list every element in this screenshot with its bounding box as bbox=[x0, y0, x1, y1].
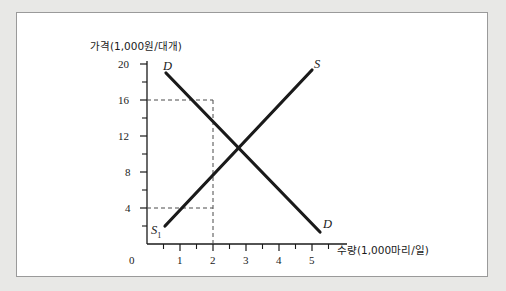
origin-label: 0 bbox=[129, 255, 135, 266]
x-major-ticks bbox=[180, 244, 312, 251]
x-axis-title: 수량(1,000마리/일) bbox=[337, 245, 429, 256]
y-minor-ticks bbox=[142, 82, 147, 226]
supply-demand-chart bbox=[17, 13, 489, 278]
x-tick-label-2: 2 bbox=[210, 255, 216, 266]
y-major-ticks bbox=[140, 64, 147, 208]
demand-curve-bottom-label: D bbox=[323, 218, 332, 231]
y-tick-label-16: 16 bbox=[118, 95, 129, 106]
figure-frame: 가격(1,000원/대개) 수량(1,000마리/일) 0 4 8 12 16 … bbox=[16, 12, 488, 277]
demand-curve-top-label: D bbox=[163, 60, 172, 73]
y-axis-title: 가격(1,000원/대개) bbox=[90, 41, 182, 52]
y-tick-label-20: 20 bbox=[118, 59, 129, 70]
supply-curve-top-label: S bbox=[314, 58, 320, 71]
x-tick-label-4: 4 bbox=[276, 255, 282, 266]
y-tick-label-12: 12 bbox=[118, 131, 129, 142]
y-tick-label-8: 8 bbox=[125, 167, 131, 178]
supply-curve-bottom-label-sub: 1 bbox=[157, 231, 161, 240]
x-tick-label-5: 5 bbox=[309, 255, 315, 266]
supply-curve-bottom-label: S1 bbox=[151, 224, 161, 240]
x-tick-label-3: 3 bbox=[243, 255, 249, 266]
y-tick-label-4: 4 bbox=[125, 203, 131, 214]
x-tick-label-1: 1 bbox=[177, 255, 183, 266]
